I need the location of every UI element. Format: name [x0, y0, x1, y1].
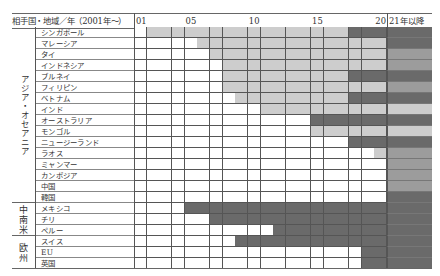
grid-cell: [210, 38, 223, 49]
grid-cell: [235, 60, 248, 71]
grid-cell: [261, 159, 274, 170]
grid-cell: [235, 49, 248, 60]
grid-cell: [349, 214, 362, 225]
grid-cell: [134, 49, 147, 60]
future-cell: [387, 126, 432, 137]
grid-cell: [374, 93, 387, 104]
year-tick-15: 15: [312, 14, 323, 28]
row-label: インド: [35, 104, 134, 115]
future-cell: [387, 159, 432, 170]
grid-cell: [197, 82, 210, 93]
grid-cell: [286, 137, 299, 148]
grid-cell: [197, 192, 210, 203]
row-label: ラオス: [35, 148, 134, 159]
grid-cell: [223, 126, 236, 137]
grid-cell: [223, 93, 236, 104]
row-label: 韓国: [35, 192, 134, 203]
future-cell: [387, 236, 432, 247]
grid-cell: [349, 82, 362, 93]
grid-cell: [159, 27, 172, 38]
grid-cell: [362, 38, 375, 49]
grid-cell: [172, 27, 185, 38]
grid-cell: [210, 60, 223, 71]
grid-cell: [172, 214, 185, 225]
table-row: ミャンマー: [35, 159, 432, 170]
grid-cell: [349, 104, 362, 115]
row-label: チリ: [35, 214, 134, 225]
grid-cell: [311, 126, 324, 137]
group-label: アジア・オセアニア: [12, 27, 35, 203]
grid-cell: [324, 104, 337, 115]
grid-cell: [185, 71, 198, 82]
row-label: カンボジア: [35, 170, 134, 181]
grid-cell: [223, 203, 236, 214]
grid-cell: [349, 137, 362, 148]
grid-cell: [134, 60, 147, 71]
grid-cell: [147, 137, 160, 148]
grid-cell: [286, 60, 299, 71]
grid-cell: [336, 181, 349, 192]
grid-cell: [197, 38, 210, 49]
grid-cell: [286, 115, 299, 126]
grid-cell: [336, 71, 349, 82]
grid-cell: [336, 214, 349, 225]
grid-cell: [172, 247, 185, 258]
grid-cell: [159, 148, 172, 159]
grid-cell: [235, 71, 248, 82]
grid-cell: [362, 126, 375, 137]
grid-cell: [134, 126, 147, 137]
grid-cell: [298, 115, 311, 126]
grid-cell: [248, 82, 261, 93]
future-cell: [387, 71, 432, 82]
grid-cell: [349, 181, 362, 192]
grid-cell: [235, 236, 248, 247]
grid-cell: [336, 170, 349, 181]
grid-cell: [134, 71, 147, 82]
grid-cell: [134, 82, 147, 93]
grid-cell: [172, 181, 185, 192]
future-cell: [387, 104, 432, 115]
grid-cell: [273, 247, 286, 258]
table-row: カンボジア: [35, 170, 432, 181]
grid-cell: [311, 82, 324, 93]
row-label: ブルネイ: [35, 71, 134, 82]
grid-cell: [197, 247, 210, 258]
grid-cell: [134, 225, 147, 236]
grid-cell: [298, 225, 311, 236]
grid-cell: [223, 137, 236, 148]
grid-cell: [197, 181, 210, 192]
grid-cell: [210, 71, 223, 82]
grid-cell: [235, 27, 248, 38]
grid-cell: [248, 115, 261, 126]
grid-cell: [134, 115, 147, 126]
grid-cell: [311, 214, 324, 225]
grid-cell: [324, 49, 337, 60]
table-row: メキシコ: [35, 203, 432, 214]
grid-cell: [223, 27, 236, 38]
grid-cell: [210, 27, 223, 38]
grid-cell: [147, 82, 160, 93]
grid-cell: [147, 247, 160, 258]
grid-cell: [261, 137, 274, 148]
grid-cell: [311, 192, 324, 203]
grid-cell: [185, 82, 198, 93]
grid-cell: [235, 181, 248, 192]
grid-cell: [273, 82, 286, 93]
grid-cell: [134, 170, 147, 181]
grid-cell: [197, 93, 210, 104]
grid-cell: [311, 148, 324, 159]
future-cell: [387, 225, 432, 236]
grid-cell: [210, 247, 223, 258]
grid-cell: [286, 27, 299, 38]
grid-cell: [324, 126, 337, 137]
grid-cell: [248, 236, 261, 247]
grid-cell: [172, 60, 185, 71]
grid-cell: [210, 126, 223, 137]
future-cell: [387, 137, 432, 148]
grid-cell: [324, 27, 337, 38]
table-row: チリ: [35, 214, 432, 225]
grid-cell: [172, 203, 185, 214]
grid-cell: [324, 115, 337, 126]
future-cell: [387, 181, 432, 192]
grid-cell: [286, 82, 299, 93]
